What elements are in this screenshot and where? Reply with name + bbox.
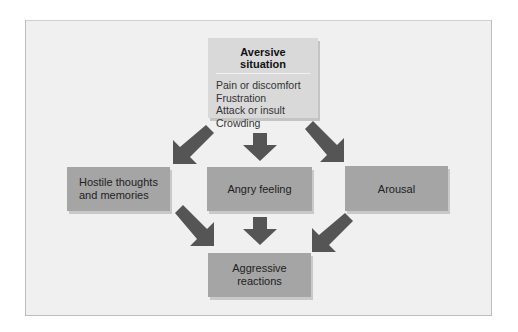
- angry-feeling-box: Angry feeling: [207, 167, 312, 211]
- arrow-angry-to-aggressive-icon: [243, 217, 277, 245]
- arrow-to-angry-icon: [243, 133, 277, 161]
- aversive-situation-box: Aversive situation Pain or discomfort Fr…: [208, 38, 318, 118]
- arousal-box: Arousal: [345, 166, 448, 211]
- aggressive-reactions-line2: reactions: [232, 275, 286, 288]
- arrow-to-hostile-icon: [173, 125, 214, 164]
- arrow-hostile-to-aggressive-icon: [175, 205, 214, 246]
- angry-feeling-label: Angry feeling: [227, 183, 291, 195]
- aggressive-reactions-box: Aggressive reactions: [208, 253, 311, 297]
- hostile-thoughts-box: Hostile thoughts and memories: [67, 167, 170, 211]
- aggressive-reactions-line1: Aggressive: [232, 262, 286, 275]
- arrow-to-arousal-icon: [305, 121, 344, 162]
- source-item: Crowding: [216, 117, 310, 130]
- hostile-thoughts-line2: and memories: [79, 189, 158, 202]
- hostile-thoughts-line1: Hostile thoughts: [79, 176, 158, 189]
- aversive-situation-title: Aversive situation: [216, 46, 310, 74]
- arousal-label: Arousal: [378, 183, 415, 195]
- source-item: Pain or discomfort: [216, 79, 310, 92]
- source-item: Attack or insult: [216, 104, 310, 117]
- source-item: Frustration: [216, 92, 310, 105]
- arrow-arousal-to-aggressive-icon: [312, 213, 353, 252]
